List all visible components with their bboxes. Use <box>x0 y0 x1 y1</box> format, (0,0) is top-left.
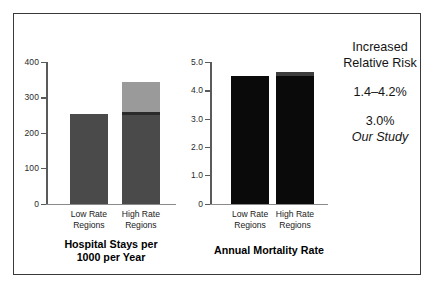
bar-segment <box>122 115 160 203</box>
y-axis-tick <box>41 133 46 134</box>
y-axis-tick <box>205 147 210 148</box>
annotation-study-value: 3.0% <box>330 114 430 130</box>
y-axis-tick-label: 400 <box>25 57 39 67</box>
y-axis-spine-left <box>46 62 48 205</box>
chart-title-line-1: Hospital Stays per <box>64 238 157 251</box>
bar-segment <box>122 112 160 115</box>
category-label-line: High Rate <box>122 209 160 220</box>
y-axis-tick <box>41 204 46 205</box>
y-axis-tick <box>205 62 210 63</box>
y-axis-tick-label: 2.0 <box>191 142 203 152</box>
chart-title-line-1: Annual Mortality Rate <box>214 244 324 257</box>
y-axis-tick-label: 3.0 <box>191 114 203 124</box>
y-axis-tick-label: 100 <box>25 163 39 173</box>
y-axis-tick-label: 0 <box>198 199 203 209</box>
y-axis-tick <box>205 90 210 91</box>
y-axis-tick <box>41 62 46 63</box>
annotation-spacer-1 <box>330 71 430 85</box>
bar-low-rate-regions <box>70 114 108 203</box>
y-axis-tick <box>205 119 210 120</box>
y-axis-spine-right <box>210 62 212 205</box>
plot-area-hospital-stays: 0100200300400Low RateRegionsHigh RateReg… <box>46 62 176 205</box>
annotation-spacer-2 <box>330 101 430 114</box>
x-axis-spine-left <box>46 204 176 206</box>
y-axis-tick-label: 1.0 <box>191 170 203 180</box>
chart-panel-annual-mortality: 01.02.03.04.05.0Low RateRegionsHigh Rate… <box>210 62 328 218</box>
annotation-heading-line-1: Increased <box>330 40 430 56</box>
category-label-line: Low Rate <box>71 209 107 220</box>
bar-segment <box>276 76 314 204</box>
category-label-line: Low Rate <box>232 209 268 220</box>
annotation-study-label: Our Study <box>330 129 430 145</box>
category-label: High RateRegions <box>276 209 314 230</box>
annotation-heading-line-2: Relative Risk <box>330 56 430 72</box>
figure-root: 0100200300400Low RateRegionsHigh RateReg… <box>0 0 435 289</box>
category-label-line: Regions <box>232 220 268 231</box>
category-label: High RateRegions <box>122 209 160 230</box>
bar-segment <box>231 76 269 204</box>
bar-high-rate-regions <box>276 72 314 204</box>
chart-panel-hospital-stays: 0100200300400Low RateRegionsHigh RateReg… <box>46 62 176 218</box>
y-axis-tick-label: 5.0 <box>191 57 203 67</box>
bar-high-rate-regions <box>122 82 160 203</box>
y-axis-tick <box>41 97 46 98</box>
bar-segment <box>276 72 314 76</box>
y-axis-tick-label: 4.0 <box>191 85 203 95</box>
y-axis-tick-label: 0 <box>34 199 39 209</box>
figure-frame: 0100200300400Low RateRegionsHigh RateReg… <box>13 13 421 275</box>
category-label: Low RateRegions <box>232 209 268 230</box>
category-label-line: Regions <box>122 220 160 231</box>
y-axis-tick-label: 200 <box>25 128 39 138</box>
y-axis-tick <box>205 175 210 176</box>
category-label: Low RateRegions <box>71 209 107 230</box>
bar-segment <box>122 82 160 112</box>
category-label-line: Regions <box>276 220 314 231</box>
annotation-risk-range: 1.4–4.2% <box>330 85 430 101</box>
bar-segment <box>70 114 108 203</box>
x-axis-spine-right <box>210 204 328 206</box>
y-axis-tick <box>205 204 210 205</box>
y-axis-tick <box>41 168 46 169</box>
category-label-line: High Rate <box>276 209 314 220</box>
chart-title-annual-mortality: Annual Mortality Rate <box>214 244 324 257</box>
chart-title-line-2: 1000 per Year <box>64 251 157 264</box>
y-axis-tick-label: 300 <box>25 92 39 102</box>
plot-area-annual-mortality: 01.02.03.04.05.0Low RateRegionsHigh Rate… <box>210 62 328 205</box>
category-label-line: Regions <box>71 220 107 231</box>
bar-low-rate-regions <box>231 76 269 204</box>
annotation-block: Increased Relative Risk 1.4–4.2% 3.0% Ou… <box>330 40 430 145</box>
chart-title-hospital-stays: Hospital Stays per 1000 per Year <box>64 238 157 264</box>
